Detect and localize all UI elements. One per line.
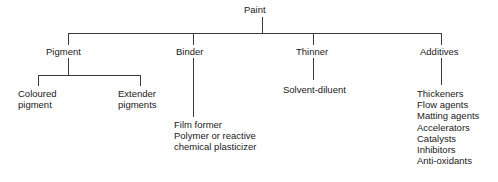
node-paint-label: Paint bbox=[244, 4, 266, 15]
leaf-line: Film former bbox=[174, 119, 256, 130]
leaf-line: Polymer or reactive bbox=[174, 130, 256, 141]
connector-drop-coloured-pigment bbox=[38, 75, 39, 86]
leaf-line: Thickeners bbox=[417, 88, 479, 99]
leaf-extender-pigments: Extender pigments bbox=[118, 88, 157, 110]
leaf-line: Matting agents bbox=[417, 110, 479, 121]
leaf-line: Accelerators bbox=[417, 122, 479, 133]
node-thinner-label: Thinner bbox=[296, 46, 328, 57]
node-additives-label: Additives bbox=[420, 46, 459, 57]
leaf-line: Flow agents bbox=[417, 99, 479, 110]
connector-drop-extender-pigments bbox=[140, 75, 141, 86]
leaf-line: pigment bbox=[18, 99, 57, 110]
connector-drop-thinner bbox=[313, 33, 314, 45]
leaf-line: chemical plasticizer bbox=[174, 141, 256, 152]
paint-composition-diagram: Paint Pigment Binder Thinner Additives C… bbox=[0, 0, 498, 182]
leaf-line: Solvent-diluent bbox=[283, 84, 346, 95]
connector-binder-stem bbox=[193, 58, 194, 117]
connector-pigment-stem bbox=[68, 58, 69, 75]
connector-root-stem bbox=[262, 17, 263, 33]
leaf-additives-list: Thickeners Flow agents Matting agents Ac… bbox=[417, 88, 479, 166]
connector-pigment-bus bbox=[38, 75, 140, 76]
leaf-line: Extender bbox=[118, 88, 157, 99]
leaf-coloured-pigment: Coloured pigment bbox=[18, 88, 57, 110]
connector-drop-pigment bbox=[68, 33, 69, 45]
connector-drop-additives bbox=[441, 33, 442, 45]
connector-main-bus bbox=[68, 33, 442, 34]
leaf-solvent-diluent: Solvent-diluent bbox=[283, 84, 346, 95]
leaf-line: Coloured bbox=[18, 88, 57, 99]
connector-thinner-stem bbox=[313, 58, 314, 80]
leaf-line: Inhibitors bbox=[417, 144, 479, 155]
node-pigment-label: Pigment bbox=[46, 46, 81, 57]
leaf-line: Anti-oxidants bbox=[417, 155, 479, 166]
node-binder-label: Binder bbox=[176, 46, 203, 57]
leaf-binder-details: Film former Polymer or reactive chemical… bbox=[174, 119, 256, 153]
connector-drop-binder bbox=[193, 33, 194, 45]
connector-additives-stem bbox=[441, 58, 442, 85]
leaf-line: Catalysts bbox=[417, 133, 479, 144]
leaf-line: pigments bbox=[118, 99, 157, 110]
